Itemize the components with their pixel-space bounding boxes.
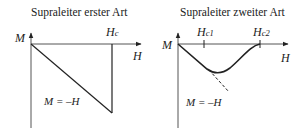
diagram-canvas: [0, 0, 302, 139]
type2-diagram: [178, 33, 288, 128]
hc2-main: H: [253, 25, 262, 39]
hc1-main: H: [197, 25, 206, 39]
type2-magnetization-curve: [178, 44, 260, 73]
type2-hc2-label: Hc2: [253, 26, 270, 38]
hc2-sub: c2: [262, 28, 270, 38]
hc-main: H: [106, 25, 115, 39]
type1-hc-label: Hc: [106, 26, 118, 38]
type1-m-axis-label: M: [15, 32, 25, 44]
type2-hc1-label: Hc1: [197, 26, 214, 38]
type1-h-axis-label: H: [133, 50, 142, 62]
type2-h-axis-label: H: [281, 52, 290, 64]
type2-relation-label: M = –H: [186, 97, 222, 108]
hc-sub: c: [115, 28, 119, 38]
type1-title: Supraleiter erster Art: [31, 6, 127, 18]
hc1-sub: c1: [206, 28, 214, 38]
type1-diagram: [31, 33, 141, 128]
type1-relation-label: M = –H: [44, 96, 80, 107]
type2-m-axis-label: M: [162, 39, 172, 51]
type2-title: Supraleiter zweiter Art: [180, 6, 285, 18]
